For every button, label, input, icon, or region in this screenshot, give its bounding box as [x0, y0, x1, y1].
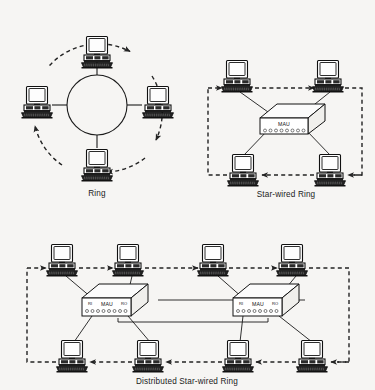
cable-mauR-bottom-4 [279, 316, 312, 342]
mau-right-ri-label: RI [239, 301, 243, 306]
mau-distributed-right[interactable]: RI MAU RO [233, 284, 299, 316]
workstation-ring-left[interactable] [22, 87, 53, 119]
ring-medium-circle [67, 75, 127, 135]
caption-star-wired-ring: Star-wired Ring [257, 190, 316, 199]
flow-dist-left-edge [27, 268, 56, 362]
mau-left-ro-label: RO [121, 301, 127, 306]
panel-ring: Ring [22, 37, 174, 199]
mau-right-ro-label: RO [272, 301, 278, 306]
workstation-ring-right[interactable] [143, 87, 174, 119]
network-topology-figure: Ring [0, 0, 375, 390]
cable-mauR-bottom-3 [240, 316, 243, 342]
workstation-dist-top-2[interactable] [113, 245, 144, 277]
caption-distributed-star-wired-ring: Distributed Star-wired Ring [136, 377, 238, 386]
cable-mauL-bottom-1 [74, 316, 92, 342]
workstation-dist-top-3[interactable] [198, 245, 229, 277]
workstation-star-bottom-left[interactable] [228, 155, 259, 187]
cable-mau-to-top-left [240, 92, 268, 112]
mau-left-label-text: MAU [101, 301, 113, 307]
workstation-dist-bottom-3[interactable] [223, 341, 254, 373]
workstation-dist-bottom-1[interactable] [57, 341, 88, 373]
cable-mau-to-bottom-right [306, 130, 330, 155]
cable-mauL-bottom-2 [128, 316, 150, 342]
flow-arc-left-up [35, 126, 62, 165]
caption-ring: Ring [88, 189, 106, 198]
trunk-link-ri-to-ro [118, 318, 268, 322]
panel-distributed-star-wired-ring: RI MAU RO RI [27, 245, 349, 387]
workstation-star-top-right[interactable] [313, 61, 344, 93]
mau-label-text: MAU [278, 121, 290, 127]
workstation-ring-bottom[interactable] [82, 150, 113, 182]
workstation-dist-bottom-4[interactable] [297, 341, 328, 373]
mau-left-ri-label: RI [88, 301, 92, 306]
workstation-star-bottom-right[interactable] [315, 155, 346, 187]
panel-star-wired-ring: MAU Star-wired Ring [208, 61, 362, 200]
mau-right-label-text: MAU [252, 301, 264, 307]
workstation-dist-top-1[interactable] [47, 245, 78, 277]
workstation-star-top-left[interactable] [222, 61, 253, 93]
flow-arc-bottom-left [107, 158, 145, 172]
flow-right-edge-down [345, 88, 362, 175]
workstation-dist-bottom-2[interactable] [133, 341, 164, 373]
flow-left-edge-up [208, 88, 227, 175]
workstation-dist-top-4[interactable] [277, 245, 308, 277]
topology-canvas: Ring [0, 0, 375, 390]
mau-distributed-left[interactable]: RI MAU RO [82, 284, 148, 316]
mau-star-wired[interactable]: MAU [260, 104, 325, 134]
workstation-ring-top[interactable] [82, 37, 113, 69]
